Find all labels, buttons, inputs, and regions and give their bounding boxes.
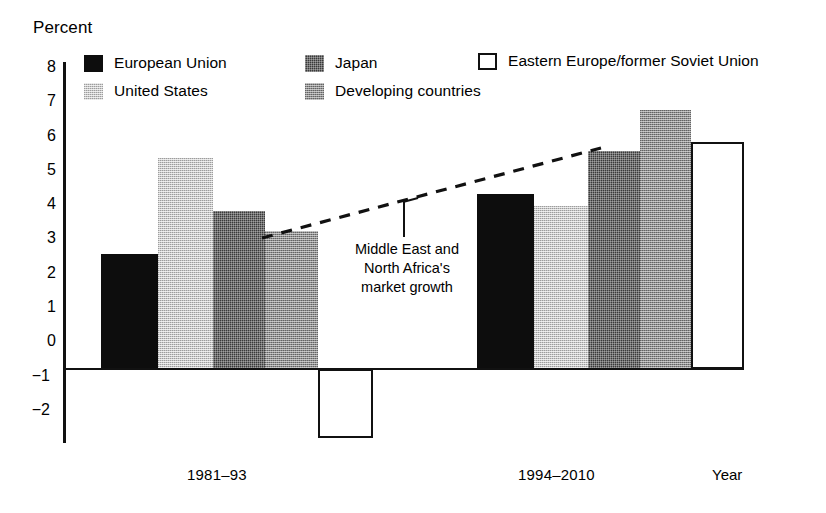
bar-1994-2010-japan — [588, 151, 640, 368]
x-axis-zero-line — [63, 368, 744, 370]
y-tick-neg2: −2 — [24, 402, 50, 418]
y-tick-6: 6 — [30, 128, 56, 144]
bar-1981-93-united-states — [158, 158, 213, 368]
bar-1981-93-developing-countries — [265, 231, 318, 368]
annotation-line-1: Middle East and — [322, 240, 492, 259]
y-tick-neg1: −1 — [24, 368, 50, 384]
y-tick-0: 0 — [30, 333, 56, 349]
y-tick-8: 8 — [30, 59, 56, 75]
bar-1994-2010-eastern-europe — [691, 142, 744, 369]
x-tick-1994-2010: 1994–2010 — [518, 466, 595, 483]
y-axis-line — [63, 62, 66, 443]
bar-chart: Percent European Union Japan Eastern Eur… — [0, 0, 826, 513]
x-tick-1981-93: 1981–93 — [187, 466, 247, 483]
y-tick-1: 1 — [30, 299, 56, 315]
y-tick-4: 4 — [30, 196, 56, 212]
bar-1981-93-japan — [213, 211, 265, 368]
x-axis-title: Year — [712, 466, 742, 483]
plot-area: 8 7 6 5 4 3 2 1 0 −1 −2 Middle — [0, 0, 826, 513]
y-tick-5: 5 — [30, 162, 56, 178]
bar-1994-2010-developing-countries — [640, 110, 691, 368]
y-tick-7: 7 — [30, 93, 56, 109]
bar-1981-93-european-union — [101, 254, 158, 368]
annotation-mena-market-growth: Middle East and North Africa's market gr… — [322, 240, 492, 297]
bar-1981-93-eastern-europe — [318, 369, 373, 438]
y-tick-3: 3 — [30, 230, 56, 246]
annotation-line-2: North Africa's — [322, 259, 492, 278]
annotation-line-3: market growth — [322, 278, 492, 297]
bar-1994-2010-united-states — [534, 206, 588, 368]
y-tick-2: 2 — [30, 265, 56, 281]
